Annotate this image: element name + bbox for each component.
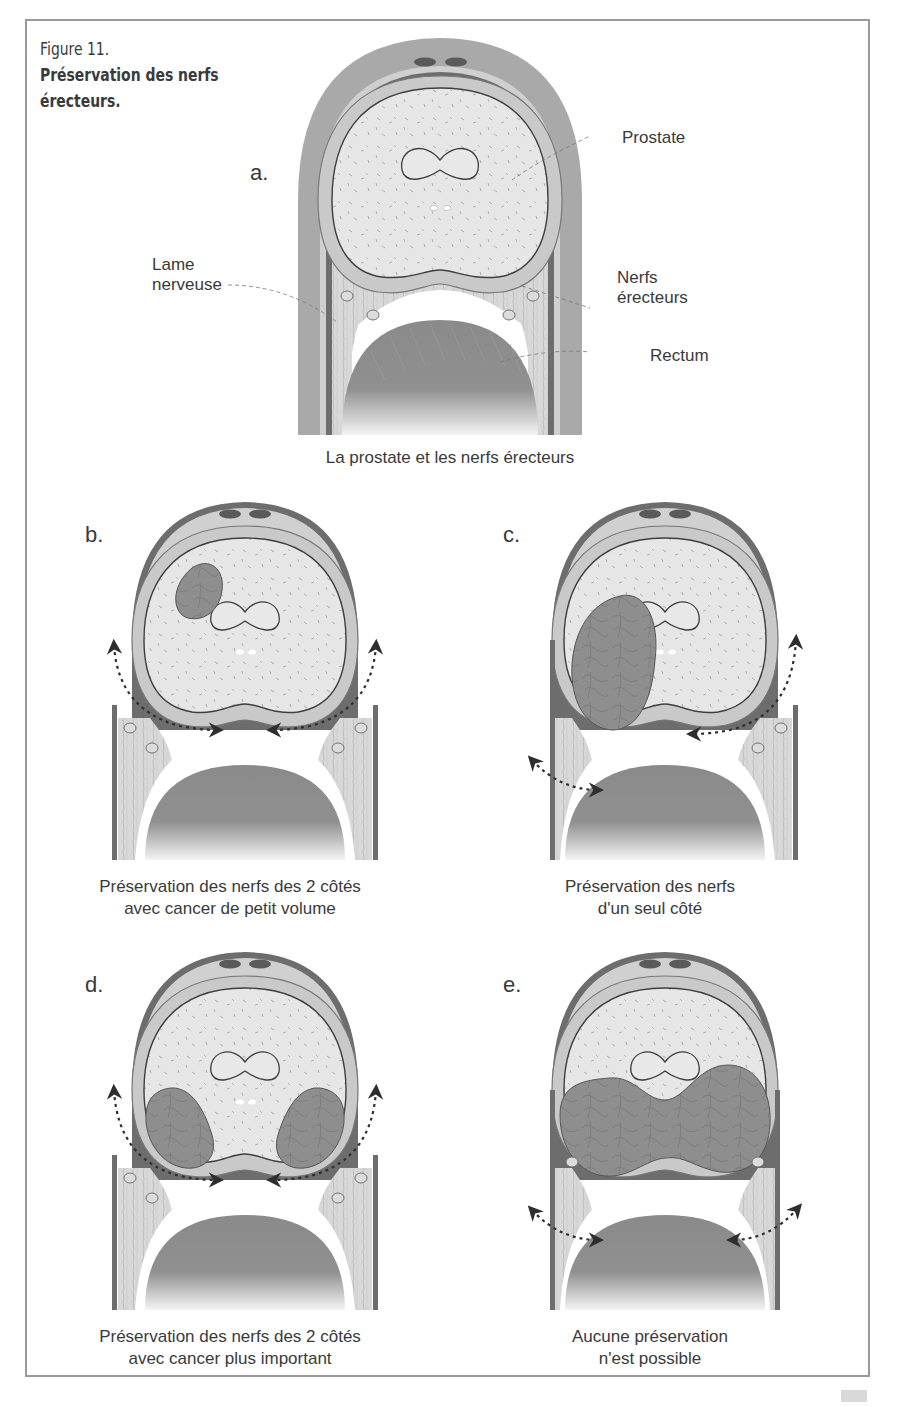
panel-letter-a: a. bbox=[250, 160, 268, 186]
caption-c: Préservation des nerfs d'un seul côté bbox=[480, 876, 820, 920]
label-rectum: Rectum bbox=[650, 346, 709, 366]
caption-d: Préservation des nerfs des 2 côtés avec … bbox=[60, 1326, 400, 1370]
prostate-illustration-a bbox=[290, 30, 590, 440]
dorsal-vein bbox=[445, 58, 467, 67]
panel-letter-c: c. bbox=[503, 522, 520, 548]
prostate-illustration-e bbox=[520, 940, 810, 1310]
caption-e: Aucune préservation n'est possible bbox=[480, 1326, 820, 1370]
prostate-illustration-b bbox=[100, 490, 390, 860]
page-corner-mark bbox=[841, 1390, 867, 1402]
figure-title-line2: érecteurs. bbox=[40, 88, 219, 114]
prostate bbox=[332, 88, 548, 278]
prostate-illustration-d bbox=[100, 940, 390, 1310]
nerve-bundle-left bbox=[341, 291, 353, 301]
nerve-bundle-right bbox=[503, 310, 515, 320]
prostate-illustration-c bbox=[520, 490, 810, 860]
label-nerfs-erecteurs: Nerfs érecteurs bbox=[617, 268, 688, 308]
caption-a: La prostate et les nerfs érecteurs bbox=[250, 447, 650, 469]
dorsal-vein bbox=[414, 58, 436, 67]
nerve-bundle-left bbox=[367, 310, 379, 320]
caption-b: Préservation des nerfs des 2 côtés avec … bbox=[60, 876, 400, 920]
nerve-bundle-right bbox=[527, 291, 539, 301]
figure-title: Figure 11. Préservation des nerfs érecte… bbox=[40, 36, 219, 114]
panel-letter-e: e. bbox=[503, 972, 521, 998]
figure-number: Figure 11. bbox=[40, 36, 219, 62]
label-prostate: Prostate bbox=[622, 128, 685, 148]
label-lame-nerveuse: Lame nerveuse bbox=[152, 255, 222, 295]
figure-title-line1: Préservation des nerfs bbox=[40, 62, 219, 88]
